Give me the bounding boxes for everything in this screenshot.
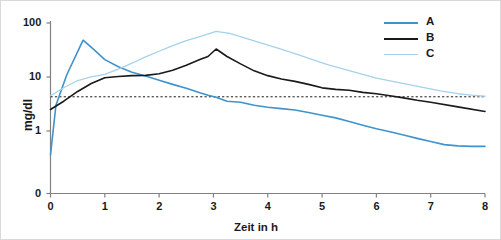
series-line-B [51,49,486,111]
y-tick-label: 1 [35,124,41,136]
y-tick-label: 100 [23,16,41,28]
x-tick-label: 8 [482,200,488,212]
x-axis-ticks [51,194,486,198]
x-tick-label: 4 [265,200,271,212]
legend-label-B: B [426,31,434,43]
legend-swatch-C [384,54,418,55]
chart-container: mg/dl Zeit in h 1001010 012345678 ABC [0,0,501,240]
legend-swatch-B [384,38,418,40]
series-line-C [51,31,486,96]
x-tick-label: 7 [428,200,434,212]
x-tick-label: 1 [102,200,108,212]
x-tick-label: 2 [156,200,162,212]
legend-label-A: A [426,15,434,27]
x-tick-label: 6 [373,200,379,212]
y-tick-label: 10 [29,70,41,82]
y-axis-title: mg/dl [21,99,35,131]
x-axis-title: Zeit in h [234,221,278,233]
data-series-group [51,31,486,155]
x-tick-label: 5 [319,200,325,212]
y-tick-label: 0 [35,187,41,199]
series-line-A [51,40,486,155]
legend-swatch-A [384,22,418,24]
legend-label-C: C [426,47,434,59]
x-tick-label: 3 [210,200,216,212]
x-tick-label: 0 [48,200,54,212]
axes-group [47,21,486,198]
